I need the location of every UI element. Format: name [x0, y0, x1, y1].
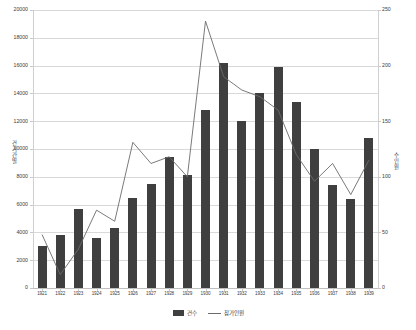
y-axis-left-tick-mark: [30, 38, 33, 39]
x-axis-tick-mark: [60, 288, 61, 291]
y-axis-left-tick-label: 12000: [0, 119, 28, 124]
y-axis-left-tick-label: 20000: [0, 7, 28, 12]
x-axis-tick-mark: [278, 288, 279, 291]
x-axis-tick-mark: [296, 288, 297, 291]
y-axis-right-tick-mark: [378, 177, 381, 178]
legend-item-bars[interactable]: 건수: [173, 310, 197, 316]
y-axis-left-tick-mark: [30, 288, 33, 289]
y-axis-left-tick-label: 0: [0, 285, 28, 290]
x-axis-tick-mark: [169, 288, 170, 291]
x-axis-tick-mark: [333, 288, 334, 291]
x-axis-tick-label: 1939: [358, 291, 380, 296]
y-axis-left-tick-mark: [30, 149, 33, 150]
legend-label-line: 참가인원: [224, 310, 244, 316]
y-axis-left-tick-mark: [30, 260, 33, 261]
x-axis-tick-mark: [206, 288, 207, 291]
chart-container: 0200040006000800010000120001400016000180…: [0, 0, 416, 330]
y-axis-right-tick-label: 100: [382, 174, 408, 179]
y-axis-left-title: 건 기간 별: [11, 140, 18, 164]
x-axis-tick-mark: [42, 288, 43, 291]
y-axis-right-tick-mark: [378, 121, 381, 122]
y-axis-left-tick-mark: [30, 93, 33, 94]
y-axis-left-tick-mark: [30, 177, 33, 178]
x-axis-tick-mark: [78, 288, 79, 291]
legend-label-bars: 건수: [187, 310, 197, 316]
plot-area: [33, 10, 378, 288]
line-series-참가인원: [33, 10, 378, 288]
y-axis-left-tick-label: 18000: [0, 35, 28, 40]
x-axis-tick-mark: [242, 288, 243, 291]
y-axis-left-tick-mark: [30, 205, 33, 206]
y-axis-right-tick-label: 250: [382, 7, 408, 12]
y-axis-left-tick-label: 2000: [0, 258, 28, 263]
x-axis-tick-mark: [187, 288, 188, 291]
x-axis-tick-mark: [314, 288, 315, 291]
y-axis-right-tick-label: 50: [382, 230, 408, 235]
x-axis-tick-mark: [260, 288, 261, 291]
y-axis-left-tick-label: 14000: [0, 91, 28, 96]
y-axis-right-tick-mark: [378, 10, 381, 11]
x-axis-tick-mark: [133, 288, 134, 291]
legend-item-line[interactable]: 참가인원: [208, 310, 244, 316]
y-axis-right-spine: [378, 10, 379, 289]
y-axis-right-tick-mark: [378, 288, 381, 289]
legend-swatch-line-icon: [208, 313, 221, 314]
y-axis-right-tick-mark: [378, 232, 381, 233]
y-axis-right-title: 수 인원: [393, 152, 400, 170]
y-axis-left-tick-mark: [30, 10, 33, 11]
chart-legend: 건수 참가인원: [0, 310, 416, 316]
x-axis-tick-mark: [115, 288, 116, 291]
x-axis-tick-mark: [369, 288, 370, 291]
y-axis-right-tick-label: 0: [382, 285, 408, 290]
y-axis-left-tick-label: 6000: [0, 202, 28, 207]
y-axis-left-tick-mark: [30, 66, 33, 67]
y-axis-left-tick-label: 8000: [0, 174, 28, 179]
y-axis-right-tick-mark: [378, 66, 381, 67]
x-axis-tick-mark: [224, 288, 225, 291]
y-axis-right-tick-label: 200: [382, 63, 408, 68]
y-axis-left-tick-mark: [30, 121, 33, 122]
x-axis-tick-mark: [97, 288, 98, 291]
x-axis-tick-mark: [151, 288, 152, 291]
y-axis-left-tick-mark: [30, 232, 33, 233]
y-axis-right-tick-label: 150: [382, 119, 408, 124]
y-axis-left-spine: [33, 10, 34, 289]
legend-swatch-bar-icon: [173, 310, 184, 316]
y-axis-left-tick-label: 16000: [0, 63, 28, 68]
y-axis-left-tick-label: 4000: [0, 230, 28, 235]
x-axis-tick-mark: [351, 288, 352, 291]
